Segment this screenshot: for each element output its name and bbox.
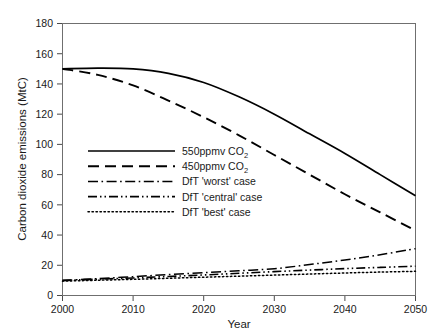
y-tick-label: 180 [35,17,53,29]
y-tick-label: 80 [41,168,53,180]
x-tick-label: 2010 [121,303,145,315]
y-tick-label: 20 [41,259,53,271]
y-tick-label: 40 [41,229,53,241]
x-tick-label: 2000 [51,303,75,315]
x-tick-label: 2040 [333,303,357,315]
legend-label: DfT 'best' case [182,206,251,218]
emissions-line-chart: 180160140120100806040200 200020102020203… [0,0,442,335]
y-tick-label: 140 [35,78,53,90]
y-tick-label: 0 [47,289,53,301]
y-tick-label: 160 [35,48,53,60]
x-axis-title: Year [227,318,250,330]
legend-label: DfT 'worst' case [182,175,256,187]
x-tick-label: 2030 [263,303,287,315]
x-tick-label: 2050 [404,303,428,315]
y-axis-title: Carbon dioxide emissions (MtC) [16,77,28,241]
y-tick-label: 120 [35,108,53,120]
legend-label: DfT 'central' case [182,191,262,203]
y-tick-label: 100 [35,138,53,150]
x-tick-label: 2020 [192,303,216,315]
y-tick-label: 60 [41,199,53,211]
